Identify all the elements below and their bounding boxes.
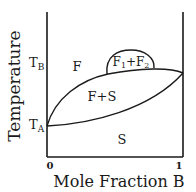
region-fluid: F (72, 59, 81, 74)
tick-t-a: TA (29, 117, 45, 134)
x-tick-1: 1 (176, 160, 183, 171)
region-fluid-solid: F+S (88, 89, 117, 104)
tick-t-b: TB (29, 55, 45, 72)
x-axis-label: Mole Fraction B (53, 172, 184, 191)
region-two-fluid: F1+F2 (113, 55, 150, 70)
region-solid: S (118, 132, 127, 147)
phase-diagram: Temperature TB TA F F1+F2 F+S S 0 1 Mole… (0, 0, 196, 192)
y-axis-label: Temperature (4, 30, 24, 141)
x-tick-0: 0 (47, 160, 54, 171)
